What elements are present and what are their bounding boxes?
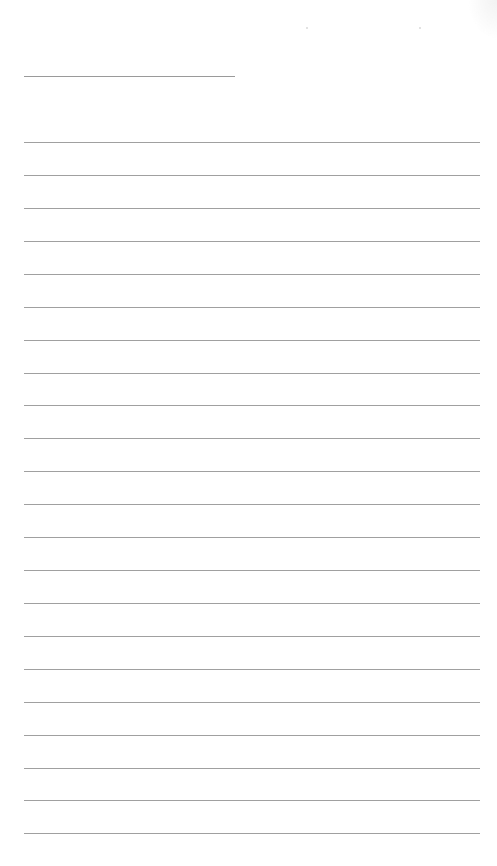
- scan-speck: [306, 27, 308, 29]
- ruled-line: [24, 636, 480, 637]
- scan-speck: [419, 27, 421, 29]
- ruled-line: [24, 833, 480, 834]
- ruled-line: [24, 471, 480, 472]
- ruled-line: [24, 702, 480, 703]
- ruled-line: [24, 603, 480, 604]
- ruled-line: [24, 142, 480, 143]
- ruled-line: [24, 274, 480, 275]
- ruled-line: [24, 768, 480, 769]
- ruled-line: [24, 570, 480, 571]
- ruled-line: [24, 438, 480, 439]
- ruled-line: [24, 537, 480, 538]
- ruled-line: [24, 669, 480, 670]
- ruled-line: [24, 405, 480, 406]
- ruled-line: [24, 800, 480, 801]
- ruled-line: [24, 307, 480, 308]
- ruled-line: [24, 241, 480, 242]
- ruled-line: [24, 735, 480, 736]
- ruled-line: [24, 373, 480, 374]
- title-line: [24, 76, 235, 77]
- ruled-line: [24, 208, 480, 209]
- lined-page: [0, 0, 497, 866]
- ruled-line: [24, 340, 480, 341]
- scan-corner-shadow: [467, 0, 497, 40]
- ruled-line: [24, 504, 480, 505]
- ruled-line: [24, 175, 480, 176]
